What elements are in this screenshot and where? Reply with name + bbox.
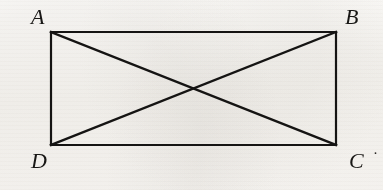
vertex-label-c: C	[349, 150, 364, 172]
stray-tick-mark: ·	[373, 146, 378, 161]
geometry-figure-page: A B C D ·	[0, 0, 383, 190]
vertex-label-a: A	[31, 6, 44, 28]
vertex-label-d: D	[31, 150, 47, 172]
rectangle-diagonals-diagram	[0, 0, 383, 190]
vertex-label-b: B	[345, 6, 358, 28]
